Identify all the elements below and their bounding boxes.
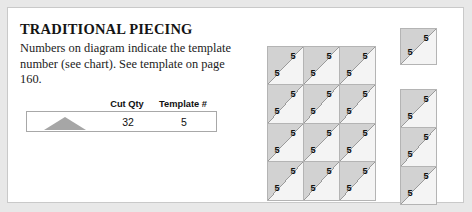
page-title: TRADITIONAL PIECING (20, 20, 250, 38)
table-header-cut-qty: Cut Qty (102, 99, 152, 109)
quilt-block-label-lower: 5 (408, 150, 413, 159)
quilt-block-label-upper: 5 (290, 129, 295, 138)
quilt-block: 55 (303, 161, 340, 201)
table-cell-cut-qty: 32 (103, 116, 153, 128)
quilt-block-label-upper: 5 (423, 34, 428, 43)
quilt-block-label-upper: 5 (362, 167, 367, 176)
quilt-block: 55 (303, 84, 340, 124)
quilt-block-label-upper: 5 (423, 95, 428, 104)
quilt-block-label-lower: 5 (275, 69, 280, 78)
quilt-block-label-lower: 5 (408, 48, 413, 57)
quilt-block-label-lower: 5 (347, 146, 352, 155)
triangle-icon (44, 117, 86, 130)
quilt-side-column-group: 55 55 55 (400, 89, 436, 205)
quilt-block-label-upper: 5 (423, 172, 428, 181)
table-cell-shape (27, 112, 103, 131)
quilt-block: 55 (267, 123, 304, 163)
quilt-block-label-lower: 5 (311, 146, 316, 155)
quilt-block: 55 (267, 161, 304, 201)
quilt-block-label-lower: 5 (311, 69, 316, 78)
quilt-block-label-lower: 5 (311, 184, 316, 193)
table-header-row: Cut Qty Template # (26, 94, 217, 109)
quilt-block-label-lower: 5 (408, 112, 413, 121)
quilt-block: 55 (339, 123, 376, 163)
quilt-block-label-lower: 5 (347, 69, 352, 78)
quilt-block: 55 (303, 123, 340, 163)
quilt-diagram: 55 55 55 55 55 55 55 55 55 55 55 55 55 5… (260, 21, 465, 207)
quilt-block-label-upper: 5 (326, 52, 331, 61)
quilt-block: 55 (339, 84, 376, 124)
quilt-block-label-lower: 5 (408, 189, 413, 198)
quilt-block: 55 (303, 46, 340, 86)
quilt-block-label-upper: 5 (326, 90, 331, 99)
quilt-block-label-upper: 5 (362, 90, 367, 99)
quilt-block-label-lower: 5 (275, 184, 280, 193)
quilt-block-label-upper: 5 (290, 167, 295, 176)
quilt-main-grid: 55 55 55 55 55 55 55 55 55 55 55 55 (267, 46, 375, 200)
page-root: TRADITIONAL PIECING Numbers on diagram i… (0, 0, 472, 212)
instructions-panel: TRADITIONAL PIECING Numbers on diagram i… (20, 20, 250, 192)
quilt-block-label-upper: 5 (362, 52, 367, 61)
quilt-block-label-upper: 5 (290, 52, 295, 61)
quilt-block-label-lower: 5 (275, 146, 280, 155)
quilt-block: 55 (339, 46, 376, 86)
quilt-block-label-lower: 5 (275, 107, 280, 116)
quilt-block: 55 (400, 127, 437, 167)
quilt-block: 55 (400, 28, 437, 65)
table-row[interactable]: 32 5 (26, 111, 217, 132)
table-cell-template-number: 5 (153, 116, 215, 128)
quilt-block-label-upper: 5 (326, 167, 331, 176)
quilt-block-label-upper: 5 (326, 129, 331, 138)
quilt-block: 55 (400, 89, 437, 129)
quilt-block-label-upper: 5 (290, 90, 295, 99)
content-card: TRADITIONAL PIECING Numbers on diagram i… (7, 7, 464, 203)
quilt-block-label-lower: 5 (347, 184, 352, 193)
quilt-block: 55 (339, 161, 376, 201)
quilt-block-label-upper: 5 (362, 129, 367, 138)
cut-quantity-table: Cut Qty Template # 32 5 (26, 94, 217, 132)
quilt-block: 55 (267, 46, 304, 86)
quilt-block: 55 (400, 166, 437, 206)
table-header-template-number: Template # (152, 99, 214, 109)
quilt-block-label-lower: 5 (311, 107, 316, 116)
quilt-single-block-group: 55 (400, 28, 436, 64)
quilt-block: 55 (267, 84, 304, 124)
quilt-block-label-lower: 5 (347, 107, 352, 116)
quilt-block-label-upper: 5 (423, 133, 428, 142)
panel-description: Numbers on diagram indicate the template… (20, 41, 238, 88)
